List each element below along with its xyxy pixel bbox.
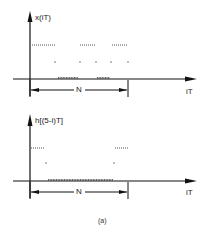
top-n-left-arrow-icon	[31, 88, 39, 92]
top-span-label: N	[76, 86, 82, 94]
bottom-mid-samples	[45, 162, 115, 164]
top-mid-samples	[54, 61, 129, 63]
bottom-x-label: iT	[186, 189, 193, 197]
top-y-axis-arrow-icon	[28, 11, 33, 22]
bottom-plot	[13, 114, 197, 199]
bottom-n-left-arrow-icon	[31, 190, 39, 194]
top-plot	[13, 11, 197, 97]
bottom-x-axis-arrow-icon	[185, 179, 197, 184]
figure-caption: (a)	[98, 217, 107, 224]
top-x-label: iT	[186, 88, 193, 96]
bottom-y-axis-arrow-icon	[28, 114, 33, 126]
top-n-right-arrow-icon	[119, 88, 127, 92]
diagram-canvas	[0, 0, 207, 238]
bottom-n-right-arrow-icon	[119, 190, 127, 194]
top-x-axis-arrow-icon	[185, 77, 197, 82]
top-y-label: x(iT)	[35, 14, 51, 22]
bottom-y-label: h[(5-i)T]	[35, 117, 63, 125]
bottom-span-label: N	[76, 188, 82, 196]
